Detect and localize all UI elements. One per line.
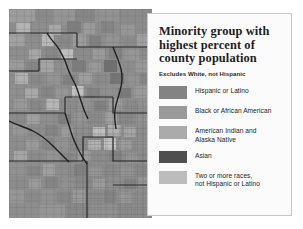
legend-item-hispanic-or-latino[interactable]: Hispanic or Latino bbox=[159, 86, 287, 99]
legend-item-asian[interactable]: Asian bbox=[159, 151, 287, 164]
legend-item-label: American Indian and Alaska Native bbox=[195, 126, 256, 143]
legend-item-label: Black or African American bbox=[195, 106, 271, 115]
legend-item-two-or-more-races[interactable]: Two or more races, not Hispanic or Latin… bbox=[159, 171, 287, 188]
legend-swatch-icon bbox=[159, 86, 187, 99]
legend-items-list: Hispanic or Latino Black or African Amer… bbox=[159, 86, 287, 196]
legend-title: Minority group with highest percent of c… bbox=[159, 25, 285, 66]
legend-item-label: Two or more races, not Hispanic or Latin… bbox=[195, 171, 260, 188]
map-vector-layer bbox=[9, 9, 152, 218]
legend-item-american-indian-and-alaska-native[interactable]: American Indian and Alaska Native bbox=[159, 126, 287, 143]
legend-item-label: Asian bbox=[195, 151, 212, 160]
legend-item-black-or-african-american[interactable]: Black or African American bbox=[159, 106, 287, 119]
legend-swatch-icon bbox=[159, 126, 187, 139]
map-legend-panel: Minority group with highest percent of c… bbox=[147, 13, 292, 216]
legend-swatch-icon bbox=[159, 171, 187, 184]
legend-item-label: Hispanic or Latino bbox=[195, 86, 249, 95]
county-choropleth-map[interactable] bbox=[9, 9, 152, 218]
legend-swatch-icon bbox=[159, 151, 187, 164]
legend-swatch-icon bbox=[159, 106, 187, 119]
map-figure-root: Minority group with highest percent of c… bbox=[0, 0, 303, 229]
legend-subtitle: Excludes White, not Hispanic bbox=[159, 70, 287, 78]
